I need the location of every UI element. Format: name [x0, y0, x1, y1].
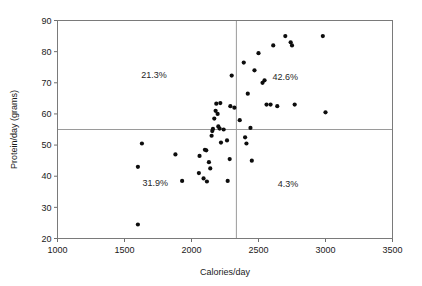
data-point: [222, 127, 226, 131]
data-point: [250, 159, 254, 163]
data-point: [271, 43, 275, 47]
data-point: [219, 140, 223, 144]
data-point: [197, 171, 201, 175]
data-point: [207, 160, 211, 164]
data-point: [204, 148, 208, 152]
data-point: [275, 104, 279, 108]
data-point: [248, 126, 252, 130]
x-tick-label: 1500: [114, 245, 134, 255]
data-point: [230, 74, 234, 78]
data-point: [218, 101, 222, 105]
data-point: [228, 157, 232, 161]
data-point: [140, 141, 144, 145]
x-tick-label: 2500: [248, 245, 268, 255]
x-axis-title: Calories/day: [200, 267, 251, 277]
y-tick-label: 40: [41, 171, 51, 181]
data-point: [262, 78, 266, 82]
data-point: [232, 106, 236, 110]
data-point: [264, 102, 268, 106]
data-point: [226, 179, 230, 183]
data-point: [268, 102, 272, 106]
y-tick-label: 90: [41, 16, 51, 26]
y-tick-label: 80: [41, 47, 51, 57]
x-axis-ticks: 100015002000250030003500: [47, 239, 402, 255]
data-point: [180, 179, 184, 183]
data-point: [208, 166, 212, 170]
data-point: [242, 60, 246, 64]
data-point: [214, 102, 218, 106]
data-point: [225, 138, 229, 142]
quadrant-percentage-label: 42.6%: [273, 72, 299, 82]
data-point: [211, 127, 215, 131]
quadrant-percentage-label: 21.3%: [141, 70, 167, 80]
scatter-plot-figure: 2030405060708090 10001500200025003000350…: [0, 0, 422, 286]
chart-canvas: 2030405060708090 10001500200025003000350…: [0, 0, 422, 286]
data-point: [293, 102, 297, 106]
quadrant-percentage-label: 31.9%: [143, 178, 169, 188]
data-point: [136, 165, 140, 169]
data-point: [238, 118, 242, 122]
data-point: [256, 51, 260, 55]
x-tick-label: 3000: [315, 245, 335, 255]
data-point: [218, 126, 222, 130]
data-point: [252, 68, 256, 72]
y-axis-title: Protein/day (grams): [9, 90, 19, 169]
data-point: [197, 154, 201, 158]
data-point: [323, 110, 327, 114]
data-point: [243, 135, 247, 139]
data-point: [246, 92, 250, 96]
y-tick-label: 30: [41, 203, 51, 213]
quadrant-percentage-label: 4.3%: [278, 179, 299, 189]
x-tick-label: 2000: [181, 245, 201, 255]
x-tick-label: 3500: [382, 245, 402, 255]
data-point: [205, 179, 209, 183]
y-tick-label: 50: [41, 140, 51, 150]
x-tick-label: 1000: [47, 245, 67, 255]
y-tick-label: 70: [41, 78, 51, 88]
data-point: [216, 112, 220, 116]
y-axis-ticks: 2030405060708090: [41, 16, 57, 244]
data-point: [283, 34, 287, 38]
y-tick-label: 20: [41, 234, 51, 244]
data-point: [290, 43, 294, 47]
data-point: [212, 117, 216, 121]
data-point: [136, 222, 140, 226]
data-point: [228, 104, 232, 108]
data-point: [321, 34, 325, 38]
y-tick-label: 60: [41, 109, 51, 119]
data-point: [210, 134, 214, 138]
data-points: [136, 34, 328, 227]
data-point: [173, 152, 177, 156]
data-point: [244, 141, 248, 145]
data-point: [201, 176, 205, 180]
